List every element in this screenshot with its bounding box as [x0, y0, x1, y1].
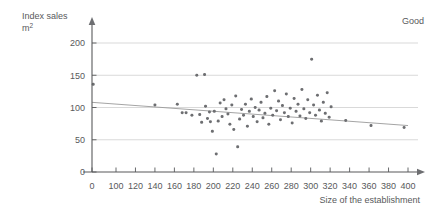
- x-tick-label-280: 280: [284, 181, 299, 191]
- x-axis-ticks: 0100120140160180200220240260280300320340…: [89, 168, 415, 192]
- data-point: [203, 73, 206, 76]
- data-point: [232, 128, 235, 131]
- data-point: [252, 115, 255, 118]
- data-point: [240, 108, 243, 111]
- y-axis-arrow-icon: [89, 17, 96, 25]
- trend-line-group: [92, 102, 408, 125]
- data-point: [261, 116, 264, 119]
- y-tick-label-150: 150: [70, 71, 85, 81]
- x-tick-label-380: 380: [381, 181, 396, 191]
- data-point: [403, 126, 406, 129]
- data-point: [153, 103, 156, 106]
- data-point: [281, 104, 284, 107]
- data-point: [314, 114, 317, 117]
- data-point: [279, 118, 282, 121]
- data-point: [293, 97, 296, 100]
- x-tick-label-140: 140: [147, 181, 162, 191]
- data-point: [217, 120, 220, 123]
- chart-canvas: 050100150200 010012014016018020022024026…: [0, 0, 444, 210]
- data-point: [324, 112, 327, 115]
- x-tick-label-120: 120: [128, 181, 143, 191]
- data-point: [246, 125, 249, 128]
- y-axis-title-line1: Index sales: [22, 11, 68, 21]
- y-tick-label-0: 0: [80, 167, 85, 177]
- data-point: [326, 91, 329, 94]
- data-point: [185, 111, 188, 114]
- grid-lines: [92, 43, 418, 140]
- data-point: [295, 110, 298, 113]
- data-point: [238, 118, 241, 121]
- data-point: [181, 111, 184, 114]
- x-tick-label-260: 260: [264, 181, 279, 191]
- y-axis-unit-exponent: 2: [30, 22, 34, 29]
- data-point: [223, 98, 226, 101]
- data-point: [291, 121, 294, 124]
- x-tick-label-340: 340: [342, 181, 357, 191]
- data-point: [344, 119, 347, 122]
- data-point: [244, 103, 247, 106]
- data-point: [275, 109, 278, 112]
- data-point: [265, 95, 268, 98]
- data-point: [258, 109, 261, 112]
- axes: [83, 17, 425, 175]
- x-axis-title: Size of the establishment: [319, 195, 420, 205]
- data-point: [208, 111, 211, 114]
- data-point: [176, 103, 179, 106]
- data-point: [242, 114, 245, 117]
- data-point: [260, 101, 263, 104]
- y-tick-label-50: 50: [75, 135, 85, 145]
- data-point: [248, 110, 251, 113]
- data-point: [213, 110, 216, 113]
- data-point: [263, 112, 266, 115]
- corner-label-good: Good: [402, 16, 424, 26]
- trend-line: [92, 102, 408, 125]
- data-point: [308, 111, 311, 114]
- x-tick-label-160: 160: [167, 181, 182, 191]
- x-tick-label-300: 300: [303, 181, 318, 191]
- x-tick-label-180: 180: [186, 181, 201, 191]
- data-point: [285, 92, 288, 95]
- data-point: [256, 120, 259, 123]
- data-point: [312, 103, 315, 106]
- data-point: [219, 101, 222, 104]
- data-point: [195, 74, 198, 77]
- data-point: [306, 98, 309, 101]
- y-tick-label-200: 200: [70, 38, 85, 48]
- data-point: [322, 101, 325, 104]
- data-point: [269, 107, 272, 110]
- x-axis-arrow-icon: [417, 169, 425, 176]
- data-point: [224, 107, 227, 110]
- data-point: [318, 109, 321, 112]
- data-point: [209, 120, 212, 123]
- x-tick-label-0: 0: [89, 181, 94, 191]
- x-tick-label-320: 320: [323, 181, 338, 191]
- scatter-chart: 050100150200 010012014016018020022024026…: [0, 0, 444, 210]
- x-tick-label-360: 360: [362, 181, 377, 191]
- y-axis-unit: m: [22, 23, 30, 33]
- data-point: [287, 115, 290, 118]
- x-tick-label-100: 100: [108, 181, 123, 191]
- data-point: [267, 123, 270, 126]
- data-point: [328, 116, 331, 119]
- data-point: [316, 94, 319, 97]
- data-points-group: [92, 58, 406, 156]
- data-point: [310, 58, 313, 61]
- x-tick-label-220: 220: [225, 181, 240, 191]
- data-point: [277, 100, 280, 103]
- y-axis-title-line2: m2: [22, 22, 34, 34]
- y-tick-label-100: 100: [70, 103, 85, 113]
- data-point: [370, 124, 373, 127]
- data-point: [230, 103, 233, 106]
- data-point: [228, 123, 231, 126]
- data-point: [206, 117, 209, 120]
- data-point: [271, 114, 274, 117]
- data-point: [289, 107, 292, 110]
- data-point: [190, 114, 193, 117]
- x-tick-label-400: 400: [400, 181, 415, 191]
- data-point: [236, 145, 239, 148]
- data-point: [297, 103, 300, 106]
- data-point: [273, 89, 276, 92]
- data-point: [226, 112, 229, 115]
- data-point: [304, 117, 307, 120]
- data-point: [254, 106, 257, 109]
